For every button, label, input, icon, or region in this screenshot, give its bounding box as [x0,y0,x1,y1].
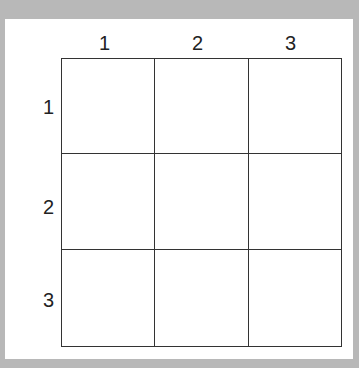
column-label-1: 1 [99,32,110,55]
grid-3x3 [61,58,342,347]
row-label-3: 3 [43,289,54,312]
row-label-2: 2 [43,196,54,219]
column-label-3: 3 [285,32,296,55]
grid-cell-3-1 [62,250,155,346]
grid-cell-3-3 [249,250,341,346]
grid-cell-2-3 [249,154,341,250]
grid-cell-1-2 [155,59,249,154]
grid-cell-1-1 [62,59,155,154]
grid-cell-2-2 [155,154,249,250]
grid-cell-3-2 [155,250,249,346]
row-label-1: 1 [43,96,54,119]
column-label-2: 2 [192,32,203,55]
grid-cell-2-1 [62,154,155,250]
grid-cell-1-3 [249,59,341,154]
